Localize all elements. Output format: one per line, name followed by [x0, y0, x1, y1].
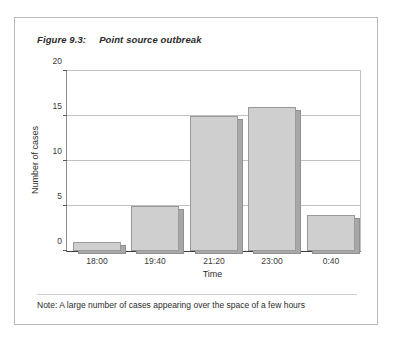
xtick-label-1: 18:00: [73, 256, 121, 266]
xtick-label-3: 21:20: [190, 256, 238, 266]
y-axis-title: Number of cases: [29, 70, 41, 250]
bar-group-5[interactable]: 0:40: [307, 71, 355, 251]
ytick-label-10: 10: [53, 146, 62, 156]
bar-4[interactable]: [248, 107, 296, 251]
y-axis-title-label: Number of cases: [30, 126, 40, 194]
bar-1[interactable]: [73, 242, 121, 251]
xtick-label-2: 19:40: [131, 256, 179, 266]
xtick-label-5: 0:40: [307, 256, 355, 266]
ytick-label-15: 15: [53, 101, 62, 111]
ytick-label-5: 5: [57, 191, 62, 201]
bar-group-1[interactable]: 18:00: [73, 71, 121, 251]
ytick-mark-5: [63, 205, 67, 206]
plot-area: 20 15 10 5 0 18:00 19:40: [66, 70, 361, 252]
ytick-mark-0: [63, 250, 67, 251]
bar-group-4[interactable]: 23:00: [248, 71, 296, 251]
figure-frame: Figure 9.3:Point source outbreak Number …: [14, 17, 378, 325]
bar-group-2[interactable]: 19:40: [131, 71, 179, 251]
ytick-label-0: 0: [57, 236, 62, 246]
bar-3[interactable]: [190, 116, 238, 251]
x-axis-title: Time: [66, 269, 359, 279]
bar-group-3[interactable]: 21:20: [190, 71, 238, 251]
bar-2[interactable]: [131, 206, 179, 251]
ytick-mark-10: [63, 160, 67, 161]
ytick-mark-20: [63, 70, 67, 71]
note-separator: [37, 294, 357, 295]
figure-note: Note: A large number of cases appearing …: [37, 300, 305, 310]
bar-5[interactable]: [307, 215, 355, 251]
ytick-mark-15: [63, 115, 67, 116]
bar-chart: Number of cases 20 15 10 5 0 18:00: [15, 18, 379, 326]
ytick-label-20: 20: [53, 56, 62, 66]
xtick-label-4: 23:00: [248, 256, 296, 266]
